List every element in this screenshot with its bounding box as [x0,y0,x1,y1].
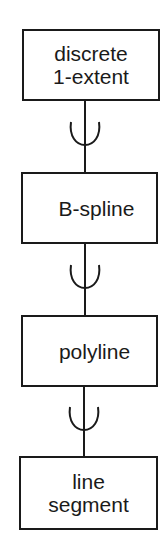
node-line-segment: line segment [19,456,158,530]
node-polyline: polyline [21,315,158,387]
node-label-line: B-spline [59,197,135,220]
subset-connector-1 [71,100,100,172]
node-discrete-1-extent: discrete 1-extent [22,29,160,101]
node-label-line: 1-extent [53,65,129,88]
node-b-spline: B-spline [21,172,158,244]
node-label-line: discrete [54,42,128,65]
node-label-line: line [72,470,105,493]
subset-connector-3 [70,386,99,456]
subset-connector-2 [71,243,100,315]
node-label-line: polyline [59,340,130,363]
node-label-line: segment [48,493,129,516]
